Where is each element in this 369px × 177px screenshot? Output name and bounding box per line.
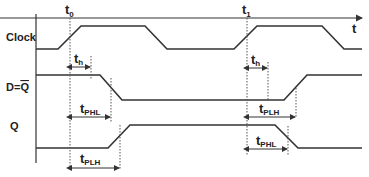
timing-diagram: t t0 t1 Clock D=Q Q th tPHL tPLH th tPLH… [0, 0, 369, 177]
tplh-label-1: tPLH [259, 101, 280, 117]
t0-marker-label: t0 [65, 2, 74, 19]
clock-waveform [36, 26, 362, 49]
th-label-1: th [251, 52, 260, 68]
time-axis-label: t [352, 21, 357, 36]
clock-label: Clock [6, 31, 37, 43]
tphl-label-0: tPHL [80, 101, 100, 117]
q-label: Q [10, 120, 19, 132]
tphl-label-1: tPHL [256, 133, 276, 149]
th-label-0: th [74, 51, 83, 67]
d-label: D=Q [6, 81, 29, 93]
d-waveform [36, 75, 362, 100]
t1-marker-label: t1 [242, 2, 251, 19]
q-waveform [36, 125, 362, 148]
tplh-label-0: tPLH [80, 151, 101, 167]
